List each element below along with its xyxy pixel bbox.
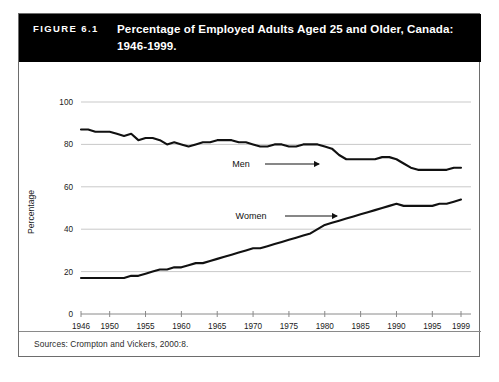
data-series-group bbox=[81, 130, 461, 278]
y-tick-label: 0 bbox=[68, 310, 73, 319]
figure-title-text: Percentage of Employed Adults Aged 25 an… bbox=[117, 21, 471, 55]
x-tick-label: 1950 bbox=[101, 322, 120, 331]
x-axis-group bbox=[81, 311, 471, 317]
x-tick-label: 1975 bbox=[280, 322, 299, 331]
line-chart-svg: 020406080100 194619501955196019651970197… bbox=[19, 62, 481, 333]
y-tick-label: 40 bbox=[64, 225, 74, 234]
gridlines-group bbox=[81, 102, 471, 272]
x-tick-label: 1970 bbox=[244, 322, 263, 331]
y-tick-label: 80 bbox=[64, 140, 74, 149]
series-line-women bbox=[81, 200, 461, 278]
x-tick-label: 1960 bbox=[172, 322, 191, 331]
x-tick-label: 1965 bbox=[208, 322, 227, 331]
x-tick-label: 1990 bbox=[387, 322, 406, 331]
annotation-label: Men bbox=[232, 159, 250, 169]
y-axis-title: Percentage bbox=[26, 190, 36, 234]
figure-card: FIGURE 6.1 Percentage of Employed Adults… bbox=[18, 13, 480, 357]
figure-number-label: FIGURE 6.1 bbox=[33, 21, 117, 34]
x-tick-label: 1985 bbox=[352, 322, 371, 331]
chart-plot-region: 020406080100 194619501955196019651970197… bbox=[19, 62, 481, 333]
x-tick-label: 1980 bbox=[316, 322, 335, 331]
x-tick-label: 1995 bbox=[423, 322, 442, 331]
figure-title-bar: FIGURE 6.1 Percentage of Employed Adults… bbox=[19, 14, 481, 62]
source-note: Sources: Crompton and Vickers, 2000:8. bbox=[34, 339, 188, 349]
series-annotations-group: MenWomen bbox=[232, 159, 337, 221]
x-tick-label: 1946 bbox=[72, 322, 91, 331]
x-tick-label: 1955 bbox=[136, 322, 155, 331]
x-axis-tick-labels: 1946195019551960196519701975198019851990… bbox=[72, 322, 471, 331]
y-tick-label: 100 bbox=[59, 98, 73, 107]
y-tick-label: 60 bbox=[64, 183, 74, 192]
x-tick-label: 1999 bbox=[452, 322, 471, 331]
y-tick-label: 20 bbox=[64, 268, 74, 277]
footer-divider bbox=[19, 331, 481, 332]
y-axis-tick-labels: 020406080100 bbox=[59, 98, 73, 319]
annotation-label: Women bbox=[236, 211, 267, 221]
